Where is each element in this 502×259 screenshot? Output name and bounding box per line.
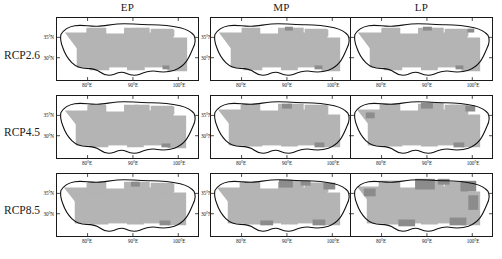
xtick-rcp45-lp-100e: 100°E [467,160,480,166]
xtick-text: 90°E [422,238,432,244]
xtick-rcp26-mp-100e: 100°E [327,82,340,88]
panel-rcp85-ep-map [57,174,198,236]
shading-light [65,28,187,72]
panel-rcp85-lp [350,173,493,237]
row-label-rcp26: RCP2.6 [4,49,40,61]
xtick-rcp45-lp-90e: 90°E [422,160,432,166]
xtick-text: 80°E [236,238,246,244]
shading-light [217,181,340,226]
ytick-text: 35°N [43,34,54,40]
xtick-text: 90°E [422,160,432,166]
xtick-text: 90°E [422,82,432,88]
ytick-rcp26-ep-30n: 30°N [43,55,54,61]
ytick-rcp85-ep-30n: 30°N [43,211,54,217]
figure-map-grid: EP MP LP RCP2.6 RCP4.5 RCP8.5 [0,0,502,259]
xtick-rcp85-lp-90e: 90°E [422,238,432,244]
ytick-text: 30°N [43,55,54,61]
panel-rcp45-mp [210,95,353,159]
xtick-rcp85-ep-100e: 100°E [173,238,186,244]
xtick-rcp45-mp-90e: 90°E [282,160,292,166]
column-header-ep-label: EP [121,1,134,13]
xtick-text: 100°E [467,82,480,88]
ytick-text: 35°N [43,190,54,196]
xtick-rcp45-ep-80e: 80°E [82,160,92,166]
xtick-text: 80°E [376,82,386,88]
xtick-rcp85-mp-100e: 100°E [327,238,340,244]
xtick-rcp85-ep-90e: 90°E [128,238,138,244]
panel-rcp85-mp [210,173,353,237]
shading-light [357,103,480,148]
xtick-text: 90°E [128,160,138,166]
xtick-rcp85-mp-90e: 90°E [282,238,292,244]
row-label-rcp85-text: RCP8.5 [4,204,40,216]
xtick-rcp45-lp-80e: 80°E [376,160,386,166]
panel-rcp45-lp-map [351,96,492,158]
panel-rcp26-ep [56,17,199,81]
xtick-rcp85-lp-80e: 80°E [376,238,386,244]
xtick-text: 90°E [282,238,292,244]
xtick-text: 90°E [128,238,138,244]
xtick-rcp85-mp-80e: 80°E [236,238,246,244]
row-label-rcp26-text: RCP2.6 [4,49,40,61]
column-header-mp-label: MP [273,1,290,13]
xtick-rcp45-mp-100e: 100°E [327,160,340,166]
panel-rcp45-ep [56,95,199,159]
xtick-rcp26-lp-80e: 80°E [376,82,386,88]
panel-rcp45-ep-map [57,96,198,158]
xtick-text: 100°E [327,238,340,244]
xtick-rcp45-ep-100e: 100°E [173,160,186,166]
xtick-rcp85-ep-80e: 80°E [82,238,92,244]
panel-rcp85-ep [56,173,199,237]
xtick-rcp26-ep-100e: 100°E [173,82,186,88]
xtick-text: 100°E [173,82,186,88]
xtick-text: 90°E [282,160,292,166]
xtick-text: 100°E [173,238,186,244]
xtick-text: 100°E [327,82,340,88]
panel-rcp85-mp-map [211,174,352,236]
row-label-rcp45: RCP4.5 [4,126,40,138]
xtick-text: 90°E [128,82,138,88]
column-header-lp-label: LP [415,1,428,13]
panel-rcp26-mp [210,17,353,81]
xtick-text: 80°E [236,160,246,166]
shading-dark [163,65,170,69]
xtick-text: 100°E [467,238,480,244]
xtick-text: 100°E [467,160,480,166]
panel-rcp26-mp-map [211,18,352,80]
xtick-rcp45-mp-80e: 80°E [236,160,246,166]
shading-light [219,28,340,72]
xtick-text: 80°E [376,160,386,166]
panel-rcp26-ep-map [57,18,198,80]
row-label-rcp45-text: RCP4.5 [4,126,40,138]
xtick-rcp26-ep-80e: 80°E [82,82,92,88]
shading-light [64,182,186,226]
panel-rcp85-lp-map [351,174,492,236]
column-header-ep: EP [56,1,199,13]
ytick-text: 30°N [43,211,54,217]
ytick-text: 35°N [43,112,54,118]
ytick-rcp45-ep-30n: 30°N [43,133,54,139]
row-label-rcp85: RCP8.5 [4,204,40,216]
xtick-text: 80°E [236,82,246,88]
panel-rcp26-lp [350,17,493,81]
xtick-rcp26-mp-80e: 80°E [236,82,246,88]
panel-rcp26-lp-map [351,18,492,80]
xtick-rcp85-lp-100e: 100°E [467,238,480,244]
shading-light [65,105,186,149]
xtick-text: 90°E [282,82,292,88]
xtick-rcp45-ep-90e: 90°E [128,160,138,166]
xtick-text: 80°E [376,238,386,244]
panel-rcp45-mp-map [211,96,352,158]
xtick-text: 80°E [82,82,92,88]
xtick-rcp26-mp-90e: 90°E [282,82,292,88]
xtick-rcp26-lp-100e: 100°E [467,82,480,88]
shading-light [358,28,480,72]
column-header-mp: MP [210,1,353,13]
column-header-lp: LP [350,1,493,13]
panel-rcp45-lp [350,95,493,159]
xtick-rcp26-lp-90e: 90°E [422,82,432,88]
shading-dark [162,143,171,147]
xtick-rcp26-ep-90e: 90°E [128,82,138,88]
xtick-text: 100°E [173,160,186,166]
xtick-text: 80°E [82,160,92,166]
